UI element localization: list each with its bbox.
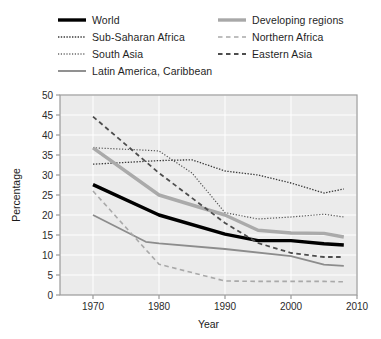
legend-item-world: World bbox=[58, 11, 212, 28]
chart-figure: World Sub-Saharan Africa South Asia Lati… bbox=[0, 0, 381, 339]
y-tick-label: 50 bbox=[42, 90, 54, 101]
x-tick-label: 2000 bbox=[280, 301, 303, 312]
y-tick-label: 5 bbox=[47, 270, 53, 281]
legend-label-sub-saharan-africa: Sub-Saharan Africa bbox=[92, 31, 185, 43]
x-axis-title: Year bbox=[198, 318, 220, 330]
legend-swatch-dashed-light-gray-icon bbox=[218, 31, 246, 43]
chart-plot-area: 0510152025303540455019701980199020002010… bbox=[0, 86, 381, 339]
legend-swatch-dotted-dark-icon bbox=[58, 31, 86, 43]
y-tick-label: 15 bbox=[42, 230, 54, 241]
y-tick-label: 25 bbox=[42, 190, 54, 201]
legend-column-right: Developing regions Northern Africa Easte… bbox=[218, 11, 344, 62]
legend-label-developing-regions: Developing regions bbox=[252, 14, 344, 26]
x-tick-label: 1980 bbox=[148, 301, 171, 312]
legend-label-eastern-asia: Eastern Asia bbox=[252, 48, 312, 60]
legend-item-northern-africa: Northern Africa bbox=[218, 28, 344, 45]
y-axis-title: Percentage bbox=[10, 168, 22, 222]
legend-item-latin-america-caribbean: Latin America, Caribbean bbox=[58, 62, 212, 79]
legend-label-northern-africa: Northern Africa bbox=[252, 31, 324, 43]
y-tick-label: 45 bbox=[42, 110, 54, 121]
y-tick-label: 10 bbox=[42, 250, 54, 261]
legend-label-world: World bbox=[92, 14, 120, 26]
y-tick-label: 30 bbox=[42, 170, 54, 181]
y-tick-label: 40 bbox=[42, 130, 54, 141]
legend-item-south-asia: South Asia bbox=[58, 45, 212, 62]
legend-swatch-dashed-dark-icon bbox=[218, 48, 246, 60]
x-tick-label: 1990 bbox=[214, 301, 237, 312]
legend-item-sub-saharan-africa: Sub-Saharan Africa bbox=[58, 28, 212, 45]
legend-label-south-asia: South Asia bbox=[92, 48, 143, 60]
legend-label-latin-america-caribbean: Latin America, Caribbean bbox=[92, 65, 212, 77]
x-tick-label: 2010 bbox=[346, 301, 369, 312]
y-tick-label: 0 bbox=[47, 290, 53, 301]
y-tick-label: 35 bbox=[42, 150, 54, 161]
legend-item-eastern-asia: Eastern Asia bbox=[218, 45, 344, 62]
chart-legend: World Sub-Saharan Africa South Asia Lati… bbox=[0, 0, 381, 86]
legend-swatch-solid-gray-icon bbox=[58, 65, 86, 77]
chart-svg: 0510152025303540455019701980199020002010… bbox=[0, 86, 381, 339]
x-tick-label: 1970 bbox=[82, 301, 105, 312]
y-tick-label: 20 bbox=[42, 210, 54, 221]
legend-swatch-solid-thick-gray-icon bbox=[218, 14, 246, 26]
legend-swatch-dotted-light-icon bbox=[58, 48, 86, 60]
legend-swatch-solid-thick-black-icon bbox=[58, 14, 86, 26]
grid-layer bbox=[60, 95, 357, 295]
legend-column-left: World Sub-Saharan Africa South Asia Lati… bbox=[58, 11, 212, 79]
legend-item-developing-regions: Developing regions bbox=[218, 11, 344, 28]
